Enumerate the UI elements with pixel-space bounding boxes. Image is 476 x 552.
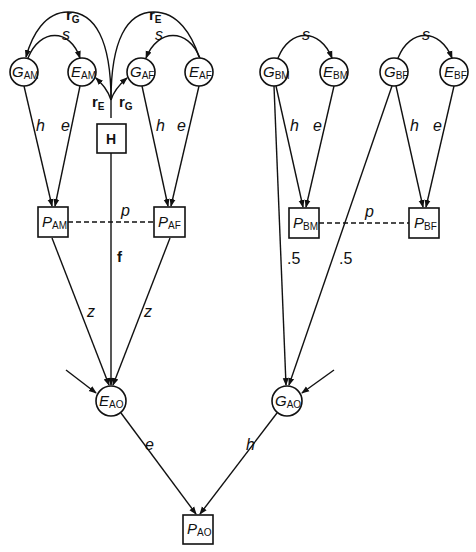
label-h-bf: h (410, 117, 419, 134)
path-diagram: GAM EAM GAF EAF H GBM EBM GBF EBF PAM PA… (0, 0, 476, 552)
node-p-bm: PBM (289, 208, 319, 238)
node-g-ao: GAO (272, 386, 302, 416)
label-e-af: e (177, 117, 186, 134)
edge-h-ao (200, 413, 277, 514)
node-h: H (97, 124, 126, 153)
label-h-ao: h (246, 436, 255, 453)
edge-h-af (142, 86, 168, 206)
node-p-af: PAF (154, 207, 185, 237)
label-z-right: z (143, 303, 152, 320)
arc-rE-h (96, 78, 111, 100)
edge-h-am (24, 86, 52, 206)
label-rE-top: rE (149, 6, 162, 25)
arc-s-am (28, 36, 80, 59)
label-p-a: p (120, 202, 130, 219)
edge-h-bf (396, 86, 423, 207)
node-e-bf: EBF (440, 58, 468, 86)
edge-z-left (52, 238, 109, 385)
node-e-bm: EBM (320, 58, 348, 86)
edge-h-bm (276, 86, 303, 207)
label-e-ao: e (145, 436, 154, 453)
label-s-bf: s (422, 26, 430, 43)
node-e-am: EAM (68, 58, 96, 86)
edge-e-bm (306, 86, 334, 207)
label-h-am: h (36, 117, 45, 134)
label-e-am: e (61, 117, 70, 134)
edge-residual-gao (302, 370, 334, 393)
edge-e-bf (426, 86, 454, 207)
svg-text:H: H (106, 131, 116, 147)
label-s-am: s (62, 26, 70, 43)
label-h-af: h (156, 117, 165, 134)
label-s-bm: s (302, 26, 310, 43)
label-half-bm: .5 (287, 250, 300, 267)
label-z-left: z (86, 303, 95, 320)
label-e-bf: e (433, 117, 442, 134)
label-f: f (117, 248, 123, 265)
node-e-af: EAF (185, 58, 213, 86)
node-g-am: GAM (10, 58, 39, 86)
edge-e-af (171, 86, 199, 206)
label-rG-top: rG (66, 6, 80, 25)
node-p-ao: PAO (183, 515, 213, 544)
label-rG-h: rG (119, 93, 133, 112)
label-half-bf: .5 (339, 250, 352, 267)
edge-e-ao (121, 413, 196, 514)
node-g-af: GAF (127, 58, 155, 86)
node-g-bf: GBF (380, 58, 408, 86)
label-e-bm: e (313, 117, 322, 134)
edge-e-am (55, 86, 80, 206)
label-s-af: s (155, 26, 163, 43)
node-p-bf: PBF (409, 208, 439, 238)
node-g-bm: GBM (260, 58, 290, 86)
node-p-am: PAM (38, 207, 68, 237)
label-p-b: p (364, 203, 374, 220)
edge-half-bm (274, 86, 286, 385)
label-rE-h: rE (92, 93, 105, 112)
node-e-ao: EAO (96, 386, 126, 416)
edge-residual-eao (66, 370, 96, 393)
label-h-bm: h (290, 117, 299, 134)
